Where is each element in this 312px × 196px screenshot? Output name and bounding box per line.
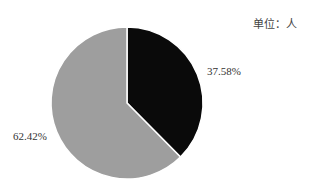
slice-label-1: 37.58% (207, 65, 241, 77)
slice-label-2: 62.42% (13, 130, 47, 142)
unit-label: 单位：人 (253, 15, 297, 31)
